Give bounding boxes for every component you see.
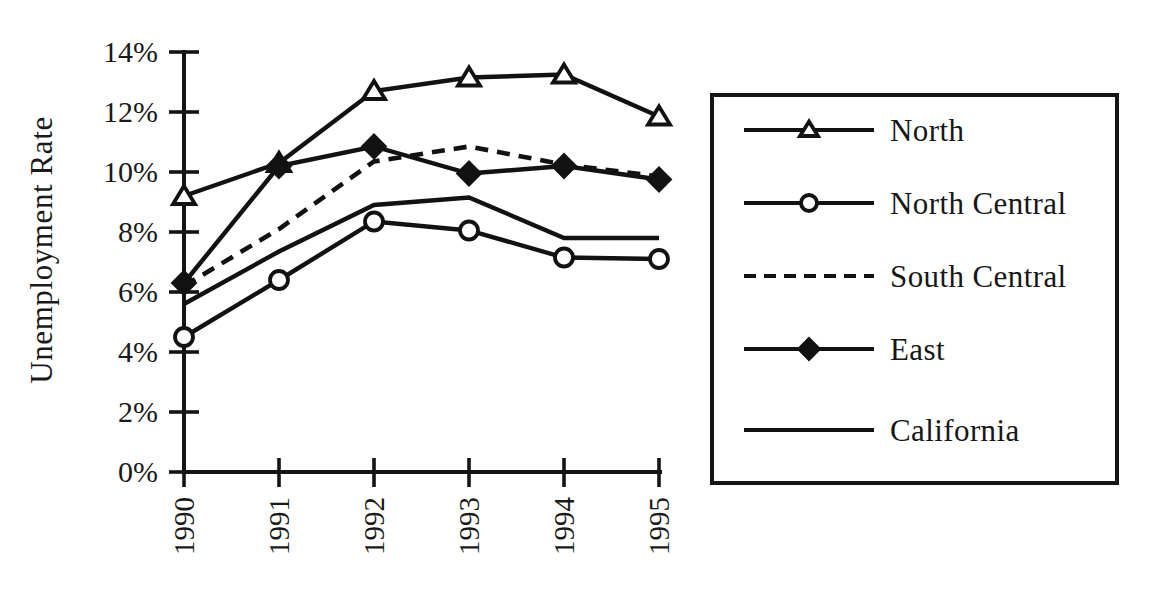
y-tick-label-14: 14% (103, 35, 158, 68)
y-axis-title: Unemployment Rate (24, 116, 59, 384)
open-circle-marker (270, 271, 288, 289)
legend-label-east: East (890, 332, 945, 367)
y-tick-label-12: 12% (103, 95, 158, 128)
x-tick-label-1990: 1990 (168, 497, 200, 555)
legend-label-north: North (890, 113, 964, 148)
y-tick-label-8: 8% (118, 215, 158, 248)
x-tick-label-1992: 1992 (358, 497, 390, 555)
open-triangle-marker (648, 107, 670, 125)
open-circle-marker (650, 250, 668, 268)
y-tick-label-4: 4% (118, 335, 158, 368)
open-circle-marker (460, 222, 478, 240)
filled-diamond-marker (553, 155, 575, 177)
x-axis: 1990 1991 1992 1993 1994 1995 (168, 458, 675, 555)
open-triangle-marker (458, 68, 480, 86)
legend-label-california: California (890, 413, 1020, 448)
legend-label-south-central: South Central (890, 259, 1067, 294)
y-tick-label-6: 6% (118, 275, 158, 308)
y-tick-label-2: 2% (118, 395, 158, 428)
open-triangle-marker (173, 186, 195, 204)
filled-diamond-marker (458, 163, 480, 185)
y-tick-label-10: 10% (103, 155, 158, 188)
series-california (184, 198, 659, 305)
unemployment-rate-line-chart: Unemployment Rate 14% 12% 10% 8% 6% 4% 2… (0, 0, 1160, 609)
series-line-california (184, 198, 659, 305)
x-tick-label-1993: 1993 (453, 497, 485, 555)
open-circle-marker (365, 213, 383, 231)
x-tick-label-1995: 1995 (643, 497, 675, 555)
series-line-north (184, 75, 659, 197)
y-tick-label-0: 0% (118, 455, 158, 488)
x-tick-label-1991: 1991 (263, 497, 295, 555)
open-triangle-marker (363, 81, 385, 99)
series-north-central (175, 213, 668, 347)
open-circle-marker (175, 328, 193, 346)
open-circle-icon (801, 195, 817, 211)
legend: North North Central South Central East C… (712, 95, 1117, 483)
open-circle-marker (555, 249, 573, 267)
plot-area (173, 65, 670, 347)
filled-diamond-marker (363, 136, 385, 158)
filled-diamond-marker (648, 169, 670, 191)
legend-label-north-central: North Central (890, 186, 1067, 221)
series-north (173, 65, 670, 205)
open-triangle-marker (553, 65, 575, 83)
x-tick-label-1994: 1994 (548, 497, 580, 556)
y-axis: 14% 12% 10% 8% 6% 4% 2% 0% (103, 35, 199, 488)
